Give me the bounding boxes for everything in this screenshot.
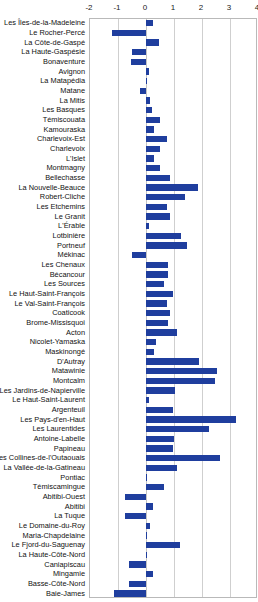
bar-row — [90, 164, 256, 174]
bar — [146, 368, 217, 374]
bar — [146, 445, 173, 451]
bar — [146, 416, 236, 422]
bar-row — [90, 309, 256, 319]
bar — [146, 329, 177, 335]
category-label: Montmagny — [46, 163, 85, 172]
bar-row — [90, 377, 256, 387]
bar-row — [90, 483, 256, 493]
bar — [146, 233, 181, 239]
bar-row — [90, 290, 256, 300]
bar-row — [90, 174, 256, 184]
category-label: Bonaventure — [43, 57, 85, 66]
category-label: D'Autray — [57, 357, 85, 366]
bar-row — [90, 367, 256, 377]
bar-row — [90, 531, 256, 541]
category-label: Les Etchemins — [37, 202, 85, 211]
x-axis-tick-labels: -2-101234 — [0, 0, 258, 18]
category-label: Témiscamingue — [33, 482, 85, 491]
category-label: Le Haut-Saint-Laurent — [12, 395, 85, 404]
category-label: Mékinac — [57, 250, 85, 259]
bar — [146, 146, 160, 152]
bar — [146, 68, 149, 74]
x-tick-label: -2 — [85, 3, 92, 13]
bar-row — [90, 145, 256, 155]
category-label: Mingamie — [53, 569, 85, 578]
bar — [146, 78, 147, 84]
category-label: Bellechasse — [45, 173, 85, 182]
bar — [146, 349, 154, 355]
plot-area — [89, 18, 257, 598]
bar-row — [90, 261, 256, 271]
category-label: Abitibi-Ouest — [43, 492, 85, 501]
category-label: Les Îles-de-la-Madeleine — [4, 18, 85, 27]
bar-row — [90, 406, 256, 416]
bar-row — [90, 319, 256, 329]
bar-row — [90, 328, 256, 338]
category-label: Acton — [66, 328, 85, 337]
bar-row — [90, 493, 256, 503]
bar-row — [90, 154, 256, 164]
bar — [146, 484, 164, 490]
bar-row — [90, 396, 256, 406]
bar-row — [90, 522, 256, 532]
bar — [146, 387, 175, 393]
category-label: Avignon — [58, 67, 85, 76]
bar-row — [90, 473, 256, 483]
bar-row — [90, 348, 256, 358]
bar — [125, 513, 146, 519]
bar-row — [90, 193, 256, 203]
bar-row — [90, 183, 256, 193]
bar — [132, 252, 146, 258]
category-label: Robert-Cliche — [40, 192, 85, 201]
x-tick-label: 4 — [255, 3, 258, 13]
bar-row — [90, 444, 256, 454]
bar-row — [90, 116, 256, 126]
x-tick-label: 3 — [227, 3, 231, 13]
bar — [146, 155, 154, 161]
bar — [146, 175, 170, 181]
category-label: Le Fjord-du-Saguenay — [11, 540, 85, 549]
bar — [146, 378, 215, 384]
bar — [146, 300, 167, 306]
bar-row — [90, 464, 256, 474]
category-label: Caniapiscau — [44, 560, 85, 569]
category-label: Charlevoix-Est — [37, 134, 85, 143]
x-tick-label: 0 — [143, 3, 147, 13]
bar — [146, 523, 150, 529]
bar — [146, 339, 156, 345]
category-label: Charlevoix — [50, 144, 85, 153]
category-label: Témiscouata — [43, 115, 85, 124]
category-label: Nicolet-Yamaska — [30, 337, 85, 346]
bar-row — [90, 203, 256, 213]
bar-row — [90, 338, 256, 348]
category-label: La Haute-Gaspésie — [21, 47, 85, 56]
bar — [146, 136, 167, 142]
category-label: L'Érable — [58, 221, 85, 230]
bar — [146, 271, 168, 277]
category-label: Brome-Missisquoi — [26, 318, 85, 327]
bar-row — [90, 125, 256, 135]
category-label: Les Basques — [42, 105, 85, 114]
bar — [146, 126, 154, 132]
bar-row — [90, 232, 256, 242]
bar — [146, 107, 152, 113]
bar — [114, 590, 146, 596]
bar-row — [90, 435, 256, 445]
bar-row — [90, 251, 256, 261]
bar-row — [90, 77, 256, 87]
bar — [132, 49, 146, 55]
category-label: Les Collines-de-l'Outaouais — [0, 453, 85, 462]
category-label: Le Haut-Saint-François — [9, 289, 85, 298]
bar — [129, 581, 146, 587]
category-label: Le Val-Saint-François — [14, 299, 85, 308]
bar-row — [90, 222, 256, 232]
category-label: Pontiac — [60, 473, 85, 482]
category-label: Antoine-Labelle — [34, 434, 85, 443]
bar-row — [90, 512, 256, 522]
bar-row — [90, 67, 256, 77]
bar-row — [90, 241, 256, 251]
bar — [146, 194, 185, 200]
bar-row — [90, 87, 256, 97]
bar-rows — [90, 19, 256, 597]
category-label: Maskinongé — [45, 347, 85, 356]
